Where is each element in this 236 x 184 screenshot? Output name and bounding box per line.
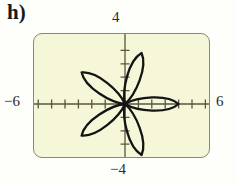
rose-petal-144 (78, 67, 129, 109)
y-min-label: −4 (110, 162, 126, 177)
x-min-label: −6 (4, 94, 20, 109)
part-label: h) (7, 2, 26, 23)
polar-rose-figure: h) (0, 0, 236, 184)
x-max-label: 6 (216, 94, 224, 109)
rose-petal-216 (78, 99, 129, 141)
calculator-screen (33, 33, 210, 158)
axes (34, 34, 210, 158)
y-max-label: 4 (112, 10, 120, 25)
polar-plot (34, 34, 210, 158)
